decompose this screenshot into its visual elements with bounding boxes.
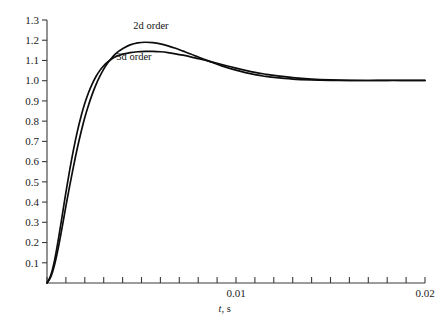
y-axis-tick-label: 1.0 [25,74,39,86]
y-axis-tick-label: 0.2 [25,236,39,248]
y-axis-tick-label: 1.1 [25,54,39,66]
line-chart-canvas: 0.10.20.30.40.50.60.70.80.91.01.11.21.3 … [0,0,443,321]
curve-label-2d-order: 2d order [133,20,169,31]
x-axis-title-text: t, s [219,303,231,314]
y-axis-tick-label: 0.6 [25,155,39,167]
curve-label-3d-order: 3d order [116,51,152,62]
y-axis-tick-label: 0.4 [25,196,39,208]
y-axis-tick-label: 1.2 [25,34,39,46]
y-axis-tick-label: 0.5 [25,176,39,188]
chart-background [0,0,443,321]
y-axis-tick-label: 0.1 [25,257,39,269]
x-axis-title: t, s [219,303,231,314]
y-axis-tick-label: 0.9 [25,95,39,107]
y-axis-tick-label: 1.3 [25,14,39,26]
y-axis-tick-label: 0.8 [25,115,39,127]
y-axis-tick-label: 0.3 [25,216,39,228]
y-axis-tick-label: 0.7 [25,135,39,147]
x-axis-tick-label: 0.02 [415,287,434,299]
chart-figure: 0.10.20.30.40.50.60.70.80.91.01.11.21.3 … [0,0,443,321]
x-axis-tick-label: 0.01 [226,287,245,299]
